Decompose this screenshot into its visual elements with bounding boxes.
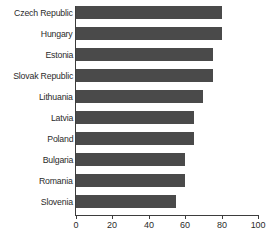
bar xyxy=(76,195,176,208)
bar xyxy=(76,48,213,61)
x-tick xyxy=(76,216,77,219)
category-label: Romania xyxy=(39,175,73,186)
bar-series xyxy=(76,6,258,215)
bar-row xyxy=(76,90,258,103)
bar xyxy=(76,69,213,82)
bar-row xyxy=(76,195,258,208)
category-label: Poland xyxy=(47,133,73,144)
x-tick xyxy=(112,216,113,219)
x-tick-label: 0 xyxy=(74,220,79,230)
x-axis-line xyxy=(75,215,259,216)
bar-row xyxy=(76,132,258,145)
category-label: Slovak Republic xyxy=(13,70,73,81)
x-tick xyxy=(222,216,223,219)
bar-row xyxy=(76,153,258,166)
plot-area xyxy=(76,6,258,215)
bar xyxy=(76,111,194,124)
x-tick-label: 60 xyxy=(180,220,190,230)
x-tick-label: 20 xyxy=(107,220,117,230)
category-label: Hungary xyxy=(41,28,73,39)
bar-row xyxy=(76,48,258,61)
x-tick-label: 100 xyxy=(251,220,266,230)
bar xyxy=(76,153,185,166)
x-tick xyxy=(149,216,150,219)
bar-row xyxy=(76,69,258,82)
bar xyxy=(76,27,222,40)
y-axis-line xyxy=(75,6,76,216)
bar-row xyxy=(76,111,258,124)
category-label: Lithuania xyxy=(39,91,73,102)
category-label: Bulgaria xyxy=(42,154,73,165)
bar xyxy=(76,90,203,103)
bar xyxy=(76,132,194,145)
category-label: Latvia xyxy=(51,112,73,123)
bar xyxy=(76,6,222,19)
x-tick xyxy=(258,216,259,219)
x-tick-label: 80 xyxy=(217,220,227,230)
bar-chart: Czech Republic Hungary Estonia Slovak Re… xyxy=(0,0,278,243)
x-tick xyxy=(185,216,186,219)
category-label: Slovenia xyxy=(41,196,73,207)
x-tick-label: 40 xyxy=(144,220,154,230)
bar-row xyxy=(76,6,258,19)
bar-row xyxy=(76,174,258,187)
category-label: Czech Republic xyxy=(14,7,73,18)
bar-row xyxy=(76,27,258,40)
bar xyxy=(76,174,185,187)
category-label: Estonia xyxy=(45,49,73,60)
